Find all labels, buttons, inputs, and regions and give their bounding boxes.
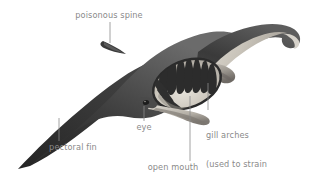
label-gill-arches: gill arches (used to strain plankton) bbox=[206, 112, 310, 179]
label-pectoral-fin: pectoral fin bbox=[18, 143, 128, 153]
manta-ray-anatomy-figure: poisonous spine pectoral fin eye open mo… bbox=[0, 0, 313, 179]
label-poisonous-spine: poisonous spine bbox=[54, 11, 164, 21]
label-open-mouth: open mouth bbox=[128, 163, 218, 173]
label-eye: eye bbox=[120, 123, 168, 133]
eye-highlight bbox=[144, 101, 146, 102]
label-gill-arches-line-1: gill arches bbox=[206, 131, 310, 141]
label-gill-arches-line-2: (used to strain bbox=[206, 160, 310, 170]
